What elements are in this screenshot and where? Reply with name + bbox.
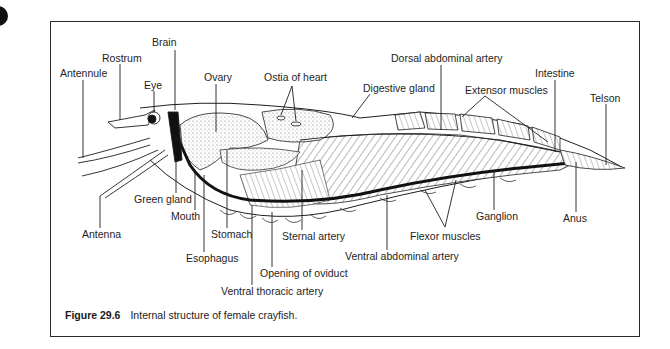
label-eye: Eye <box>144 79 162 91</box>
label-antennule: Antennule <box>60 67 107 79</box>
label-stomach: Stomach <box>211 228 252 240</box>
label-digestive-gland: Digestive gland <box>363 82 435 94</box>
label-ostia-of-heart: Ostia of heart <box>264 71 327 83</box>
telson <box>560 150 625 169</box>
figure-caption: Figure 29.6Internal structure of female … <box>65 309 297 321</box>
figure-caption-text: Internal structure of female crayfish. <box>130 309 297 321</box>
label-opening-of-oviduct: Opening of oviduct <box>260 267 348 279</box>
label-extensor-muscles: Extensor muscles <box>465 84 548 96</box>
label-brain: Brain <box>152 36 177 48</box>
label-rostrum: Rostrum <box>102 52 142 64</box>
label-esophagus: Esophagus <box>186 252 239 264</box>
label-ventral-abdominal-artery: Ventral abdominal artery <box>345 250 459 262</box>
label-ventral-thoracic-artery: Ventral thoracic artery <box>221 285 323 297</box>
crayfish-illustration <box>0 0 670 349</box>
label-antenna: Antenna <box>82 228 121 240</box>
label-ganglion: Ganglion <box>476 210 518 222</box>
label-dorsal-abdominal-artery: Dorsal abdominal artery <box>391 52 502 64</box>
label-telson: Telson <box>590 92 620 104</box>
antennae <box>78 138 168 198</box>
label-flexor-muscles: Flexor muscles <box>410 230 481 242</box>
figure-number: Figure 29.6 <box>65 309 120 321</box>
label-sternal-artery: Sternal artery <box>282 230 345 242</box>
label-green-gland: Green gland <box>134 193 192 205</box>
label-mouth: Mouth <box>171 210 200 222</box>
label-anus: Anus <box>563 212 587 224</box>
label-ovary: Ovary <box>204 71 232 83</box>
label-intestine: Intestine <box>535 67 575 79</box>
